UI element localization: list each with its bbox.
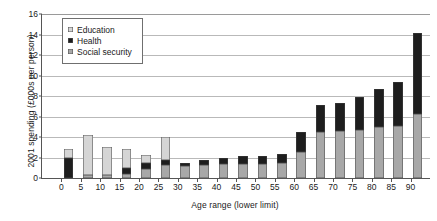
x-tick-label: 25 [154, 183, 163, 192]
bar-segment-education [83, 135, 93, 175]
bar [141, 155, 151, 178]
bar [180, 163, 190, 178]
bar-segment-social-security [238, 164, 248, 178]
bar-segment-education [122, 149, 132, 168]
bar-segment-health [296, 132, 306, 153]
x-tick-label: 35 [192, 183, 201, 192]
x-tick-mark [100, 178, 101, 182]
legend-swatch-health [68, 38, 73, 43]
x-tick-mark [294, 178, 295, 182]
y-tick-label: 16 [29, 10, 38, 19]
x-tick-label: 5 [78, 183, 83, 192]
x-tick-mark [81, 178, 82, 182]
x-axis-title: Age range (lower limit) [41, 200, 429, 210]
bar [83, 135, 93, 178]
bar-segment-education [141, 155, 151, 163]
bar-segment-social-security [102, 175, 112, 178]
x-tick-label: 90 [406, 183, 415, 192]
legend-swatch-social-security [68, 49, 73, 54]
x-tick-label: 55 [270, 183, 279, 192]
legend-label-social-security: Social security [77, 48, 132, 57]
bar-segment-social-security [335, 131, 345, 178]
bar-segment-social-security [122, 174, 132, 178]
bar [258, 156, 268, 178]
bar-segment-social-security [316, 132, 326, 178]
bar [335, 103, 345, 178]
bar [277, 154, 287, 178]
bar-segment-health [316, 105, 326, 132]
bar-segment-social-security [277, 163, 287, 178]
x-tick-label: 0 [59, 183, 64, 192]
y-tick-label: 2 [33, 153, 38, 162]
bar-segment-health [393, 82, 403, 126]
bar-segment-social-security [296, 152, 306, 178]
y-tick-label: 10 [29, 71, 38, 80]
legend-label-education: Education [77, 26, 115, 35]
legend-label-health: Health [77, 37, 102, 46]
bar-segment-social-security [393, 126, 403, 178]
x-tick-label: 20 [134, 183, 143, 192]
chart-legend: Education Health Social security [62, 18, 143, 64]
bar [161, 137, 171, 178]
x-tick-label: 80 [367, 183, 376, 192]
bar-segment-health [64, 158, 74, 179]
bar [238, 156, 248, 178]
y-tick-label: 6 [33, 112, 38, 121]
x-tick-mark [314, 178, 315, 182]
x-tick-mark [255, 178, 256, 182]
bar-segment-health [238, 156, 248, 163]
bar-segment-social-security [355, 130, 365, 178]
bar [296, 132, 306, 178]
x-tick-mark [391, 178, 392, 182]
bar-segment-health [413, 33, 423, 114]
x-tick-mark [275, 178, 276, 182]
bar-segment-social-security [374, 127, 384, 178]
bar-segment-education [161, 137, 171, 160]
x-tick-mark [178, 178, 179, 182]
x-tick-label: 45 [231, 183, 240, 192]
x-tick-mark [158, 178, 159, 182]
bar-segment-health [355, 97, 365, 130]
bar-segment-social-security [219, 164, 229, 178]
bar-segment-social-security [141, 169, 151, 178]
y-tick-label: 4 [33, 133, 38, 142]
bar [374, 89, 384, 178]
x-tick-label: 10 [95, 183, 104, 192]
x-tick-mark [352, 178, 353, 182]
legend-item-health: Health [68, 37, 132, 46]
bar-segment-health [335, 103, 345, 131]
bar [355, 97, 365, 178]
x-tick-label: 50 [251, 183, 260, 192]
x-tick-label: 85 [386, 183, 395, 192]
x-tick-label: 65 [309, 183, 318, 192]
x-tick-label: 15 [115, 183, 124, 192]
bar [102, 147, 112, 178]
bar [64, 149, 74, 178]
x-tick-label: 40 [212, 183, 221, 192]
x-tick-mark [197, 178, 198, 182]
x-tick-label: 60 [289, 183, 298, 192]
y-tick-label: 8 [33, 92, 38, 101]
bar-segment-social-security [161, 165, 171, 178]
x-tick-mark [120, 178, 121, 182]
y-tick-label: 14 [29, 30, 38, 39]
stacked-bar-chart: 2001 spending (£000s per person) 0246810… [0, 0, 437, 221]
bar [199, 160, 209, 178]
x-tick-mark [372, 178, 373, 182]
bar-segment-social-security [413, 114, 423, 178]
x-tick-mark [139, 178, 140, 182]
bar-segment-education [102, 147, 112, 176]
bar-segment-social-security [258, 164, 268, 178]
bar-segment-social-security [199, 165, 209, 178]
bar [413, 33, 423, 178]
bar-segment-health [374, 89, 384, 127]
y-tick-label: 0 [33, 174, 38, 183]
x-tick-mark [217, 178, 218, 182]
x-tick-mark [236, 178, 237, 182]
bar-segment-health [258, 156, 268, 164]
bar [219, 158, 229, 178]
bar-segment-health [277, 154, 287, 163]
bar [316, 105, 326, 178]
x-tick-label: 70 [328, 183, 337, 192]
legend-item-education: Education [68, 26, 132, 35]
